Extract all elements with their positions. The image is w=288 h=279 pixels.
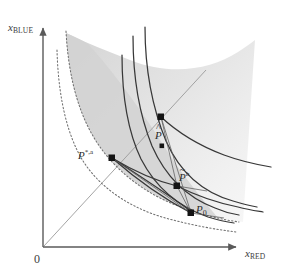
tilde-accent-icon: ~ (180, 165, 185, 175)
figure-canvas: xBLUE xRED 0 P*,a ^P ~Pb P0 (0, 0, 288, 279)
point-P-hat[interactable] (160, 144, 165, 149)
point-P-star-a[interactable] (109, 155, 116, 162)
label-P-hat: ^P (155, 130, 162, 141)
hat-accent-icon: ^ (156, 123, 161, 133)
label-P-star-a-base: P (78, 149, 85, 161)
label-P-zero-sub: 0 (203, 209, 207, 218)
label-P-zero-base: P (196, 203, 203, 215)
label-P-tilde-b-sup: b (186, 170, 190, 178)
indifference-curve-plot (0, 0, 288, 279)
label-P-zero: P0 (196, 204, 207, 215)
label-P-tilde-b: ~Pb (179, 172, 189, 183)
y-axis-label-sub: BLUE (13, 26, 33, 35)
point-P-hat-top[interactable] (158, 114, 165, 121)
point-P-tilde-b[interactable] (174, 183, 181, 190)
label-P-star-a: P*,a (78, 150, 93, 161)
y-axis-label: xBLUE (8, 18, 33, 34)
x-axis-label-sub: RED (250, 252, 266, 261)
point-P-zero[interactable] (188, 210, 195, 217)
label-P-hat-base: ^P (155, 130, 162, 141)
origin-label: 0 (34, 252, 40, 267)
x-axis-label: xRED (245, 244, 266, 260)
label-P-tilde-b-base: ~P (179, 172, 186, 183)
label-P-star-a-sup: *,a (85, 148, 93, 156)
